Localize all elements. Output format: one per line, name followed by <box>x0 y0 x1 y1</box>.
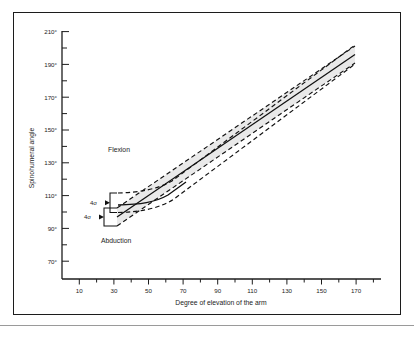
y-tick-label: 130° <box>44 159 57 166</box>
sigma-brackets <box>104 193 117 226</box>
flexion-sigma-arrow-icon <box>105 200 110 205</box>
y-axis-ticks <box>62 32 69 262</box>
abduction-mean-line <box>117 55 355 218</box>
y-tick-label: 90° <box>48 225 58 232</box>
footer-divider <box>0 325 414 326</box>
abduction-sigma-label: 4σ <box>84 214 91 220</box>
y-tick-label: 190° <box>44 61 57 68</box>
x-tick-label: 70 <box>180 287 187 294</box>
figure-root: 210° 190° 170° 150° 130° 110° 90° 70° <box>0 0 414 338</box>
x-tick-label: 170 <box>351 287 362 294</box>
y-tick-label: 70° <box>48 258 58 265</box>
abduction-sigma-arrow-icon <box>99 215 104 220</box>
flexion-series-label: Flexion <box>108 146 130 153</box>
x-tick-label: 30 <box>110 287 117 294</box>
y-tick-label: 210° <box>44 28 57 35</box>
flexion-upper-bound-line <box>118 45 355 193</box>
abduction-series-label: Abduction <box>101 237 131 244</box>
flexion-sigma-label: 4σ <box>90 200 97 206</box>
x-tick-label: 130 <box>282 287 293 294</box>
x-axis-tick-labels: 10 30 50 70 90 110 130 150 170 <box>76 287 362 294</box>
x-tick-label: 110 <box>247 287 257 294</box>
x-tick-label: 50 <box>145 287 152 294</box>
x-tick-label: 10 <box>76 287 83 294</box>
y-axis-tick-labels: 210° 190° 170° 150° 130° 110° 90° 70° <box>44 28 57 265</box>
x-tick-label: 150 <box>316 287 327 294</box>
y-axis-title: Spinohumeral angle <box>28 128 36 189</box>
spinohumeral-angle-chart: 210° 190° 170° 150° 130° 110° 90° 70° <box>0 0 414 338</box>
sigma-markers: 4σ 4σ <box>84 200 110 220</box>
x-tick-label: 90 <box>214 287 221 294</box>
flexion-sigma-bracket <box>110 193 117 213</box>
x-axis-ticks <box>79 279 373 285</box>
y-tick-label: 110° <box>45 192 58 199</box>
x-axis-title: Degree of elevation of the arm <box>175 299 267 307</box>
y-tick-label: 170° <box>44 94 57 101</box>
y-tick-label: 150° <box>44 126 57 133</box>
